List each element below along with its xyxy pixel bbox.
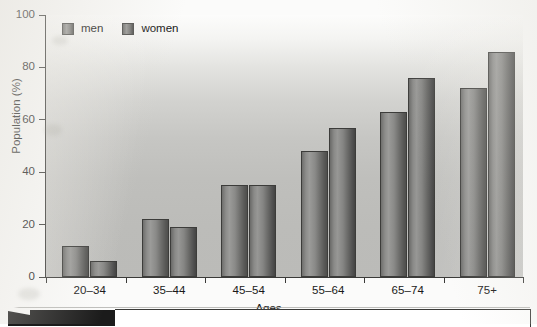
x-tick-label: 75+ (451, 285, 523, 297)
bar-women-65-74 (408, 78, 435, 277)
page-rule (8, 307, 530, 308)
y-tick-label: 100 (2, 9, 35, 21)
page-white-panel (115, 309, 531, 327)
y-tick-label: 0 (2, 271, 35, 283)
y-tick (39, 67, 45, 68)
chart-legend: men women (62, 23, 178, 35)
x-tick-label: 20–34 (54, 285, 126, 297)
x-tick (46, 278, 47, 283)
women-swatch-icon (122, 23, 134, 35)
x-tick-label: 35–44 (133, 285, 205, 297)
bar-men-75+ (460, 88, 487, 277)
bar-women-45-54 (249, 185, 276, 277)
x-tick (523, 278, 524, 283)
y-tick (39, 119, 45, 120)
bar-women-20-34 (90, 261, 117, 277)
x-tick (444, 278, 445, 283)
y-tick (39, 277, 45, 278)
page-black-tab (8, 310, 115, 326)
y-tick-label: 20 (2, 219, 35, 231)
bar-men-65-74 (380, 112, 407, 277)
y-axis-line (45, 15, 46, 278)
legend-item-women: women (122, 23, 178, 35)
bar-men-35-44 (142, 219, 169, 277)
bar-chart (46, 15, 523, 278)
bar-women-55-64 (329, 128, 356, 277)
x-tick-label: 55–64 (292, 285, 364, 297)
x-tick-label: 65–74 (372, 285, 444, 297)
legend-label-men: men (81, 23, 103, 35)
y-tick (39, 172, 45, 173)
bar-men-20-34 (62, 246, 89, 277)
y-tick (39, 15, 45, 16)
scan-smudge (18, 288, 40, 300)
y-axis-title: Population (%) (10, 56, 22, 176)
bar-women-35-44 (170, 227, 197, 277)
bar-men-45-54 (221, 185, 248, 277)
x-tick (285, 278, 286, 283)
x-tick (126, 278, 127, 283)
x-tick-label: 45–54 (213, 285, 285, 297)
legend-label-women: women (141, 23, 178, 35)
plot-area (46, 15, 523, 278)
x-tick (364, 278, 365, 283)
x-tick (205, 278, 206, 283)
men-swatch-icon (62, 23, 74, 35)
y-tick (39, 224, 45, 225)
bar-women-75+ (488, 52, 515, 277)
bar-men-55-64 (301, 151, 328, 277)
legend-item-men: men (62, 23, 103, 35)
plot-sheen (46, 15, 523, 278)
